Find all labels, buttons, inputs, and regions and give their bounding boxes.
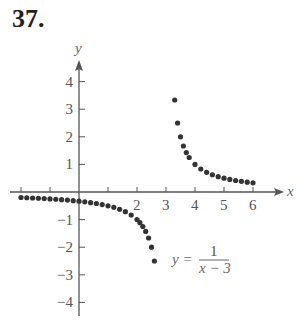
data-point <box>181 143 186 148</box>
data-point <box>71 198 76 203</box>
data-point <box>65 198 70 203</box>
data-point <box>76 199 81 204</box>
data-point <box>204 170 209 175</box>
y-tick-label: −2 <box>57 239 73 255</box>
x-tick-label: 3 <box>162 197 170 213</box>
data-point <box>47 196 52 201</box>
data-point <box>143 229 148 234</box>
data-point <box>192 162 197 167</box>
data-point <box>129 212 134 217</box>
data-point <box>239 179 244 184</box>
data-point <box>105 203 110 208</box>
data-point <box>178 134 183 139</box>
equation-denominator: x − 3 <box>198 260 231 276</box>
data-point <box>53 197 58 202</box>
data-point <box>233 178 238 183</box>
data-point <box>123 209 128 214</box>
data-point <box>111 205 116 210</box>
data-point <box>140 224 145 229</box>
data-point <box>88 200 93 205</box>
data-point <box>18 195 23 200</box>
data-point <box>94 201 99 206</box>
data-point <box>149 245 154 250</box>
x-tick-label: 4 <box>191 197 199 213</box>
graph: xy23456−4−3−2−11234y =1x − 3 <box>0 0 299 325</box>
data-point <box>245 180 250 185</box>
data-point <box>216 174 221 179</box>
y-tick-label: −3 <box>57 267 73 283</box>
data-point <box>198 166 203 171</box>
data-point <box>42 196 47 201</box>
data-point <box>36 196 41 201</box>
y-tick-label: 3 <box>66 101 74 117</box>
data-point <box>250 180 255 185</box>
y-tick-label: 2 <box>66 129 74 145</box>
equation-numerator: 1 <box>210 243 218 259</box>
y-tick-label: 4 <box>66 74 74 90</box>
data-point <box>24 195 29 200</box>
x-axis-label: x <box>286 183 294 199</box>
x-tick-label: 6 <box>249 197 257 213</box>
x-tick-label: 2 <box>133 197 141 213</box>
data-point <box>152 258 157 263</box>
data-point <box>117 207 122 212</box>
data-point <box>184 150 189 155</box>
equation-lhs: y = <box>170 251 193 267</box>
data-point <box>82 199 87 204</box>
data-point <box>210 172 215 177</box>
data-point <box>59 197 64 202</box>
data-point <box>175 120 180 125</box>
data-point <box>221 176 226 181</box>
data-point <box>100 202 105 207</box>
data-point <box>172 97 177 102</box>
y-axis-label: y <box>73 40 82 56</box>
data-point <box>227 177 232 182</box>
data-point <box>30 195 35 200</box>
data-point <box>146 235 151 240</box>
y-tick-label: 1 <box>66 156 74 172</box>
x-tick-label: 5 <box>220 197 228 213</box>
y-tick-label: −4 <box>57 294 73 310</box>
data-point <box>187 155 192 160</box>
y-tick-label: −1 <box>57 212 73 228</box>
